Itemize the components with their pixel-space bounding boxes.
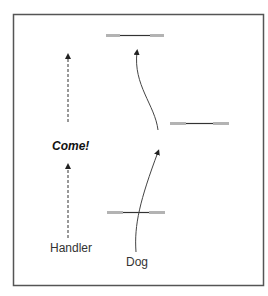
dog-path-lower [136,152,158,252]
dog-label: Dog [126,255,148,269]
dog-path-upper [137,52,158,130]
handler-label: Handler [50,241,92,255]
jump-top [106,34,164,37]
come-label: Come! [52,139,89,153]
recall-diagram: Come! Handler Dog [0,0,268,296]
jump-right [170,122,229,125]
jump-bottom [107,211,165,214]
